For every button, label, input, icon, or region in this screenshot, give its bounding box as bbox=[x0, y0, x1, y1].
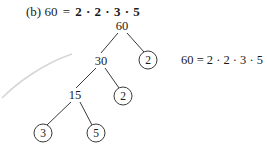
prime-node-p5: 5 bbox=[87, 124, 106, 143]
tree-nodes: 6030215235 bbox=[0, 0, 267, 150]
prime-node-p2a: 2 bbox=[139, 51, 158, 70]
factor-tree-figure: (b) 60 = 2 · 2 · 3 · 5 60 = 2 · 2 · 3 · … bbox=[0, 0, 267, 150]
prime-node-p3: 3 bbox=[34, 124, 53, 143]
prime-node-p2b: 2 bbox=[114, 87, 133, 106]
tree-node-n15: 15 bbox=[69, 89, 82, 102]
tree-node-n60: 60 bbox=[116, 20, 129, 33]
tree-node-n30: 30 bbox=[95, 55, 108, 68]
